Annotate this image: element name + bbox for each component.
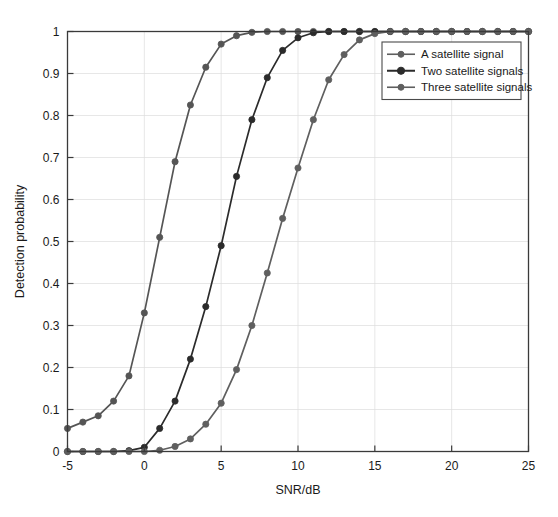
legend-label: Two satellite signals <box>421 65 524 77</box>
y-axis-title: Detection probability <box>13 184 27 298</box>
data-point-marker <box>157 234 163 240</box>
data-point-marker <box>203 421 209 427</box>
data-point-marker <box>187 436 193 442</box>
legend-marker <box>398 84 404 90</box>
legend-label: A satellite signal <box>421 48 503 60</box>
x-tick-label: 10 <box>291 459 305 473</box>
data-point-marker <box>157 447 163 453</box>
x-tick-label: 15 <box>368 459 382 473</box>
y-tick-label: 0.5 <box>43 235 60 249</box>
data-point-marker <box>172 159 178 165</box>
data-point-marker <box>218 243 224 249</box>
y-tick-label: 1 <box>53 25 60 39</box>
data-point-marker <box>310 30 316 36</box>
data-point-marker <box>233 367 239 373</box>
legend-marker <box>397 67 404 74</box>
data-point-marker <box>280 215 286 221</box>
data-point-marker <box>356 37 362 43</box>
data-point-marker <box>203 304 209 310</box>
y-tick-label: 0.4 <box>43 277 60 291</box>
x-axis-title: SNR/dB <box>275 483 320 497</box>
data-point-marker <box>341 52 347 58</box>
data-point-marker <box>310 117 316 123</box>
x-tick-label: -5 <box>62 459 73 473</box>
data-point-marker <box>187 102 193 108</box>
y-tick-label: 0.2 <box>43 361 60 375</box>
y-tick-label: 0.6 <box>43 193 60 207</box>
y-tick-label: 0.8 <box>43 109 60 123</box>
detection-probability-chart: -50510152025 00.10.20.30.40.50.60.70.80.… <box>0 0 558 517</box>
data-point-marker <box>111 398 117 404</box>
y-tick-label: 0 <box>53 445 60 459</box>
data-point-marker <box>95 413 101 419</box>
y-tick-label: 0.3 <box>43 319 60 333</box>
data-point-marker <box>249 29 255 35</box>
data-point-marker <box>249 322 255 328</box>
x-tick-label: 20 <box>445 459 459 473</box>
data-point-marker <box>80 419 86 425</box>
legend-label: Three satellite signals <box>421 81 532 93</box>
data-point-marker <box>126 373 132 379</box>
data-point-marker <box>264 75 270 81</box>
data-point-marker <box>295 35 301 41</box>
x-tick-label: 0 <box>141 459 148 473</box>
legend-marker <box>398 51 404 57</box>
y-tick-label: 0.7 <box>43 151 60 165</box>
y-tick-label: 0.1 <box>43 403 60 417</box>
data-point-marker <box>233 173 239 179</box>
data-point-marker <box>172 443 178 449</box>
data-point-marker <box>218 41 224 47</box>
legend: A satellite signalTwo satellite signalsT… <box>382 42 532 100</box>
y-tick-label: 0.9 <box>43 67 60 81</box>
data-point-marker <box>172 398 178 404</box>
data-point-marker <box>187 356 193 362</box>
data-point-marker <box>218 400 224 406</box>
data-point-marker <box>264 270 270 276</box>
data-point-marker <box>249 117 255 123</box>
data-point-marker <box>280 47 286 53</box>
y-axis-ticks: 00.10.20.30.40.50.60.70.80.91 <box>43 25 74 459</box>
data-point-marker <box>157 425 163 431</box>
x-tick-label: 5 <box>218 459 225 473</box>
data-point-marker <box>141 310 147 316</box>
data-point-marker <box>203 64 209 70</box>
data-point-marker <box>233 33 239 39</box>
x-tick-label: 25 <box>522 459 536 473</box>
data-point-marker <box>295 165 301 171</box>
data-point-marker <box>326 77 332 83</box>
